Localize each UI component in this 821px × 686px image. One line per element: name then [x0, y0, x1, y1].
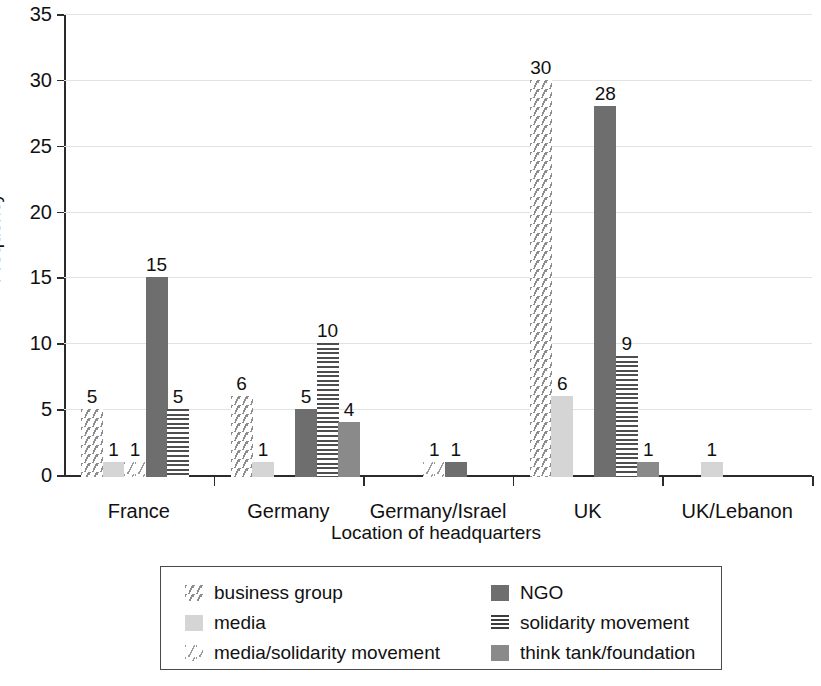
- bar-value-label: 5: [87, 387, 98, 406]
- bar: 6: [231, 396, 253, 477]
- bar-value-label: 6: [236, 374, 247, 393]
- y-tick-mark: [57, 80, 64, 82]
- x-axis-label: Location of headquarters: [331, 522, 541, 544]
- legend-label: media/solidarity movement: [214, 642, 440, 664]
- y-tick-mark: [57, 146, 64, 148]
- x-axis-separator: [513, 476, 515, 486]
- legend-swatch-icon: [185, 645, 203, 661]
- gridline: [64, 80, 812, 81]
- bar-value-label: 30: [530, 58, 551, 77]
- plot-area: 05101520253035 5111556151041130628911 Fr…: [64, 14, 812, 477]
- x-axis-category-label: UK/Lebanon: [682, 500, 793, 523]
- bar-value-label: 9: [622, 334, 633, 353]
- legend-label: think tank/foundation: [520, 642, 695, 664]
- legend-item: business group: [185, 579, 440, 607]
- bar: 1: [423, 462, 445, 477]
- legend-column-right: NGOsolidarity movementthink tank/foundat…: [491, 579, 695, 669]
- bar: 1: [701, 462, 723, 477]
- x-axis-separator: [214, 476, 216, 486]
- y-tick-label: 5: [41, 398, 52, 421]
- bar: 15: [146, 277, 168, 477]
- y-axis-label: Frequency: [0, 193, 5, 283]
- gridline: [64, 277, 812, 278]
- x-axis-category-label: Germany: [247, 500, 329, 523]
- bar: 5: [81, 409, 103, 477]
- bar-value-label: 1: [707, 440, 718, 459]
- x-axis-separator: [662, 476, 664, 486]
- legend-item: solidarity movement: [491, 609, 695, 637]
- y-tick-label: 0: [41, 464, 52, 487]
- legend-swatch-icon: [491, 615, 509, 631]
- bar: 10: [317, 343, 339, 477]
- bar: 1: [445, 462, 467, 477]
- bar: 1: [252, 462, 274, 477]
- bar: 5: [295, 409, 317, 477]
- bar-value-label: 1: [108, 440, 119, 459]
- x-axis-separator: [812, 476, 814, 486]
- y-tick-mark: [57, 409, 64, 411]
- y-tick-label: 20: [30, 200, 52, 223]
- bar: 9: [616, 356, 638, 477]
- y-tick-label: 35: [30, 3, 52, 26]
- bar-value-label: 5: [301, 387, 312, 406]
- legend-label: solidarity movement: [520, 612, 689, 634]
- bar-value-label: 15: [146, 255, 167, 274]
- gridline: [64, 14, 812, 15]
- y-tick-mark: [57, 14, 64, 16]
- y-tick-label: 10: [30, 332, 52, 355]
- bar-value-label: 10: [317, 321, 338, 340]
- y-tick-mark: [57, 212, 64, 214]
- bar: 1: [103, 462, 125, 477]
- gridline: [64, 146, 812, 147]
- y-tick-label: 30: [30, 68, 52, 91]
- bar: 5: [167, 409, 189, 477]
- bar-value-label: 1: [450, 440, 461, 459]
- bar: 1: [124, 462, 146, 477]
- legend-swatch-icon: [185, 585, 203, 601]
- y-tick-label: 15: [30, 266, 52, 289]
- bar-value-label: 6: [557, 374, 568, 393]
- legend-swatch-icon: [491, 645, 509, 661]
- legend-item: media/solidarity movement: [185, 639, 440, 667]
- legend-label: NGO: [520, 582, 563, 604]
- y-tick-mark: [57, 343, 64, 345]
- bar-value-label: 28: [595, 84, 616, 103]
- bar-value-label: 5: [173, 387, 184, 406]
- bar-value-label: 1: [258, 440, 269, 459]
- legend-label: business group: [214, 582, 343, 604]
- bar: 4: [338, 422, 360, 477]
- legend-swatch-icon: [185, 615, 203, 631]
- bar-value-label: 1: [130, 440, 141, 459]
- gridline: [64, 212, 812, 213]
- y-tick-label: 25: [30, 134, 52, 157]
- bar: 1: [637, 462, 659, 477]
- bar-value-label: 1: [429, 440, 440, 459]
- x-axis-category-label: Germany/Israel: [370, 500, 507, 523]
- legend-item: NGO: [491, 579, 695, 607]
- y-tick-mark: [57, 475, 64, 477]
- legend: business groupmediamedia/solidarity move…: [160, 566, 722, 670]
- x-axis-category-label: UK: [574, 500, 602, 523]
- bar-value-label: 1: [643, 440, 654, 459]
- bar: 28: [594, 106, 616, 477]
- legend-label: media: [214, 612, 266, 634]
- gridline: [64, 343, 812, 344]
- legend-item: media: [185, 609, 440, 637]
- legend-column-left: business groupmediamedia/solidarity move…: [185, 579, 440, 669]
- x-axis-separator: [363, 476, 365, 486]
- legend-swatch-icon: [491, 585, 509, 601]
- y-axis-line: [64, 14, 66, 477]
- bar: 6: [551, 396, 573, 477]
- legend-item: think tank/foundation: [491, 639, 695, 667]
- y-tick-mark: [57, 277, 64, 279]
- bar-value-label: 4: [344, 400, 355, 419]
- bar: 30: [530, 80, 552, 477]
- x-axis-category-label: France: [108, 500, 170, 523]
- bar-chart: Frequency 05101520253035 511155615104113…: [0, 0, 821, 686]
